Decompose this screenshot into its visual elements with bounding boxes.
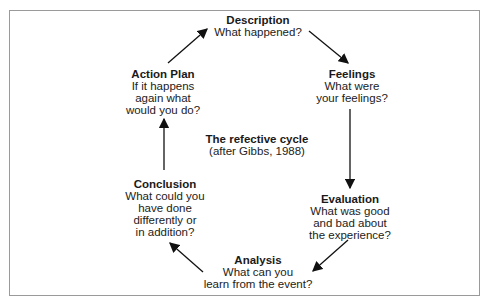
arrow-action-plan-to-description [168,29,207,63]
node-conclusion: Conclusion What could you have done diff… [125,178,204,238]
node-analysis: Analysis What can you learn from the eve… [204,254,313,290]
node-evaluation: Evaluation What was good and bad about t… [309,193,391,241]
node-action-plan: Action Plan If it happens again what wou… [126,68,200,116]
arrow-analysis-to-conclusion [170,243,203,272]
diagram-title: The refective cycle [206,133,309,145]
diagram-subtitle: (after Gibbs, 1988) [206,145,309,157]
arrow-description-to-feelings [309,31,348,63]
cycle-caption: The refective cycle (after Gibbs, 1988) [206,133,309,157]
node-feelings: Feelings What were your feelings? [316,68,388,104]
node-description: Description What happened? [214,14,302,38]
arrow-evaluation-to-analysis [313,240,348,271]
